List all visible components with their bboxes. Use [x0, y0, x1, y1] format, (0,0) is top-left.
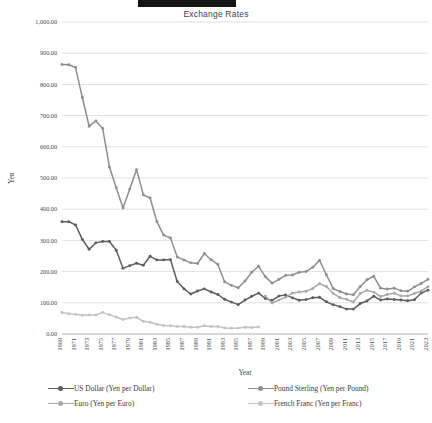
legend-dot-pound-sterling — [258, 386, 263, 391]
data-point — [115, 315, 118, 318]
y-axis-title: Yen — [8, 172, 16, 184]
data-point — [88, 125, 91, 128]
data-point — [271, 302, 274, 305]
x-tick-label: 1981 — [137, 338, 144, 350]
y-tick-label: 800.00 — [40, 81, 57, 88]
x-axis-title: Year — [238, 369, 252, 377]
x-tick-label: 2001 — [273, 338, 280, 350]
data-point — [101, 240, 104, 243]
legend-item-pound-sterling[interactable]: Pound Sterling (Yen per Pound) — [248, 384, 369, 393]
data-point — [406, 295, 409, 298]
data-point — [291, 296, 294, 299]
data-point — [338, 290, 341, 293]
data-point — [237, 286, 240, 289]
data-point — [108, 313, 111, 316]
x-tick-label: 1997 — [246, 338, 253, 350]
data-point — [122, 318, 125, 321]
data-point — [74, 313, 77, 316]
x-tick-label: 2007 — [314, 338, 321, 350]
y-tick-label: 300.00 — [40, 237, 57, 244]
x-tick-label: 1969 — [56, 338, 63, 350]
data-point — [183, 325, 186, 328]
data-point — [81, 96, 84, 99]
x-axis-tick-labels: 1969197119731975197719791981198319851987… — [56, 338, 429, 350]
legend-item-us-dollar[interactable]: US Dollar (Yen per Dollar) — [48, 384, 155, 393]
data-point — [101, 127, 104, 130]
data-point — [230, 284, 233, 287]
chart-legend: US Dollar (Yen per Dollar) Pound Sterlin… — [0, 384, 432, 418]
y-tick-label: 900.00 — [40, 49, 57, 56]
data-point — [210, 325, 213, 328]
data-point — [420, 282, 423, 285]
data-point — [352, 308, 355, 311]
data-point — [61, 220, 64, 223]
legend-item-french-franc[interactable]: French Franc (Yen per Franc) — [248, 399, 362, 408]
data-point — [162, 324, 165, 327]
exchange-rates-line-chart: 0.00100.00200.00300.00400.00500.00600.00… — [0, 0, 432, 380]
plot-area: 0.00100.00200.00300.00400.00500.00600.00… — [0, 0, 432, 423]
data-point — [332, 303, 335, 306]
data-point — [203, 324, 206, 327]
data-point — [94, 241, 97, 244]
data-point — [264, 275, 267, 278]
data-point — [372, 295, 375, 298]
data-point — [298, 299, 301, 302]
x-tick-label: 1987 — [178, 338, 185, 350]
data-point — [305, 270, 308, 273]
data-point — [176, 325, 179, 328]
data-point — [257, 265, 260, 268]
data-point — [427, 285, 430, 288]
data-point — [318, 296, 321, 299]
data-point — [366, 300, 369, 303]
data-point — [250, 271, 253, 274]
data-point — [149, 255, 152, 258]
data-point — [115, 249, 118, 252]
data-point — [128, 316, 131, 319]
legend-item-euro[interactable]: Euro (Yen per Euro) — [48, 399, 134, 408]
data-point — [142, 193, 145, 196]
data-point — [216, 293, 219, 296]
data-point — [277, 278, 280, 281]
data-point — [345, 308, 348, 311]
data-point — [413, 285, 416, 288]
data-point — [67, 220, 70, 223]
data-point — [94, 314, 97, 317]
data-point — [420, 289, 423, 292]
data-point — [338, 296, 341, 299]
data-point — [223, 298, 226, 301]
data-point — [413, 292, 416, 295]
data-point — [108, 240, 111, 243]
data-point — [352, 293, 355, 296]
data-point — [386, 288, 389, 291]
data-point — [359, 292, 362, 295]
data-point — [128, 187, 131, 190]
data-point — [257, 326, 260, 329]
data-point — [311, 287, 314, 290]
data-point — [142, 264, 145, 267]
data-point — [142, 320, 145, 323]
x-tick-label: 1975 — [97, 338, 104, 350]
data-point — [216, 263, 219, 266]
data-point — [284, 296, 287, 299]
y-tick-label: 100.00 — [40, 299, 57, 306]
legend-marker-french-franc — [248, 400, 274, 408]
legend-label-pound-sterling: Pound Sterling (Yen per Pound) — [274, 384, 369, 393]
x-tick-label: 1991 — [205, 338, 212, 350]
data-point — [291, 274, 294, 277]
data-point — [244, 299, 247, 302]
legend-label-euro: Euro (Yen per Euro) — [74, 399, 134, 408]
data-point — [189, 261, 192, 264]
data-point — [298, 291, 301, 294]
data-point — [393, 292, 396, 295]
data-point — [155, 220, 158, 223]
data-point — [399, 299, 402, 302]
data-point — [305, 290, 308, 293]
data-point — [67, 312, 70, 315]
y-tick-label: 700.00 — [40, 112, 57, 119]
data-point — [325, 285, 328, 288]
data-point — [372, 275, 375, 278]
data-point — [305, 298, 308, 301]
data-point — [318, 282, 321, 285]
data-point — [427, 278, 430, 281]
data-point — [325, 300, 328, 303]
